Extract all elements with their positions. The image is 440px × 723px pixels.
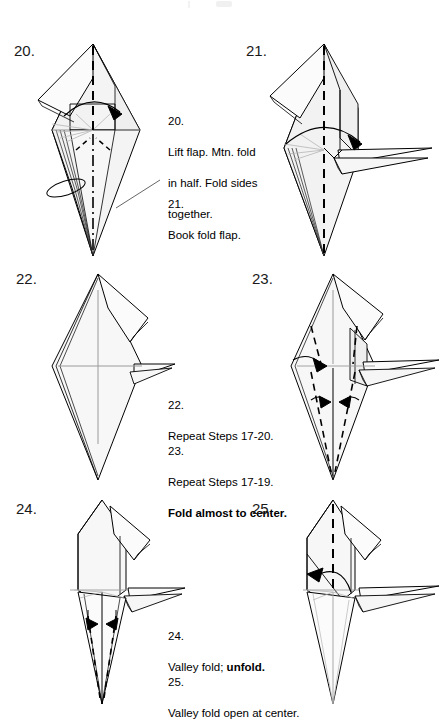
diagram-step-24: [30, 498, 185, 708]
diagram-step-23: [255, 268, 440, 490]
caption-20-number: 20.: [168, 114, 272, 130]
caption-20-line1: Lift flap. Mtn. fold: [168, 145, 272, 161]
diagram-step-21: [262, 38, 440, 263]
scan-artifact: [186, 0, 236, 9]
diagram-step-22: [30, 268, 175, 490]
diagram-step-25: [255, 498, 440, 708]
diagram-step-20: [30, 38, 170, 263]
